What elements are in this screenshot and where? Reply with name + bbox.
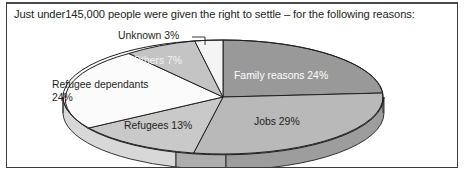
slice-label-unknown: Unknown 3%	[118, 30, 179, 42]
slice-label-refugee-dependants-line1: Refugee dependants	[52, 79, 148, 90]
slice-label-others: Others 7%	[133, 55, 182, 67]
slice-label-refugee-dependants: Refugee dependants 24%	[52, 78, 148, 104]
slice-label-refugees: Refugees 13%	[124, 120, 192, 132]
slice-label-jobs: Jobs 29%	[254, 116, 300, 128]
pie-chart-figure: Just under145,000 people were given the …	[0, 0, 470, 172]
slice-label-refugee-dependants-line2: 24%	[52, 92, 73, 103]
pie-chart-area: Unknown 3% Others 7% Refugee dependants …	[0, 0, 470, 172]
pie-slice-family-reasons	[223, 40, 383, 97]
slice-label-family-reasons: Family reasons 24%	[234, 70, 328, 82]
